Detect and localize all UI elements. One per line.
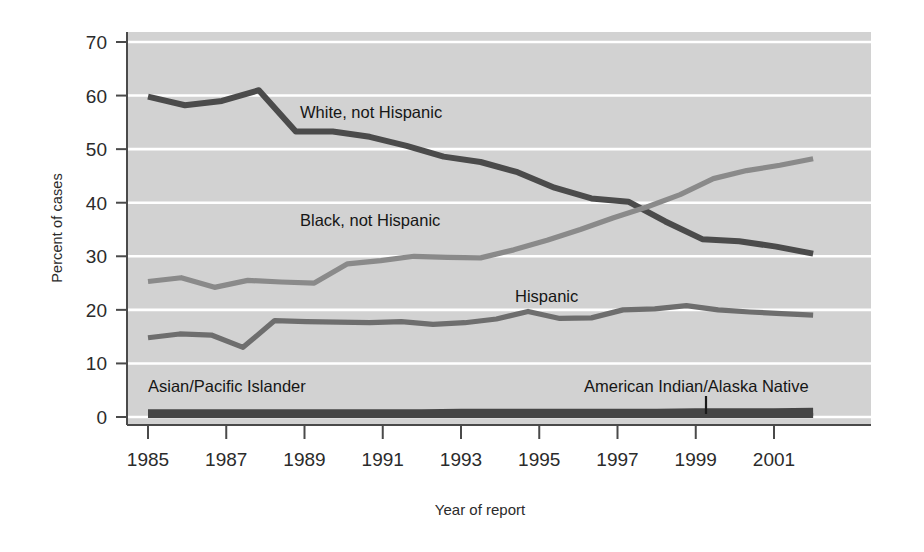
x-tick-label: 1995 xyxy=(518,449,560,470)
y-tick-label: 20 xyxy=(86,300,107,321)
x-tick-label: 1993 xyxy=(440,449,482,470)
y-tick-label: 10 xyxy=(86,353,107,374)
y-tick-label: 60 xyxy=(86,86,107,107)
y-axis-ticks: 010203040506070 xyxy=(86,32,127,428)
series-label-black: Black, not Hispanic xyxy=(300,211,440,229)
x-tick-label: 1997 xyxy=(596,449,638,470)
line-chart-svg: 010203040506070 198519871989199119931995… xyxy=(0,0,924,552)
x-axis-title: Year of report xyxy=(435,501,526,518)
x-tick-label: 1999 xyxy=(675,449,717,470)
plot-area-background xyxy=(127,32,871,425)
y-tick-label: 40 xyxy=(86,193,107,214)
series-label-asian-pacific-islander: Asian/Pacific Islander xyxy=(148,377,306,395)
x-axis-ticks: 198519871989199119931995199719992001 xyxy=(127,425,795,470)
series-label-hispanic: Hispanic xyxy=(515,287,578,305)
x-tick-label: 2001 xyxy=(753,449,795,470)
x-tick-label: 1989 xyxy=(283,449,325,470)
y-tick-label: 0 xyxy=(96,407,107,428)
series-label-american-indian-alaska-native: American Indian/Alaska Native xyxy=(584,377,809,395)
series-label-white: White, not Hispanic xyxy=(300,103,442,121)
y-tick-label: 30 xyxy=(86,246,107,267)
y-tick-label: 70 xyxy=(86,32,107,53)
chart-figure: 010203040506070 198519871989199119931995… xyxy=(0,0,924,552)
x-tick-label: 1985 xyxy=(127,449,169,470)
x-tick-label: 1991 xyxy=(362,449,404,470)
x-tick-label: 1987 xyxy=(205,449,247,470)
y-axis-title: Percent of cases xyxy=(49,173,65,283)
y-tick-label: 50 xyxy=(86,139,107,160)
